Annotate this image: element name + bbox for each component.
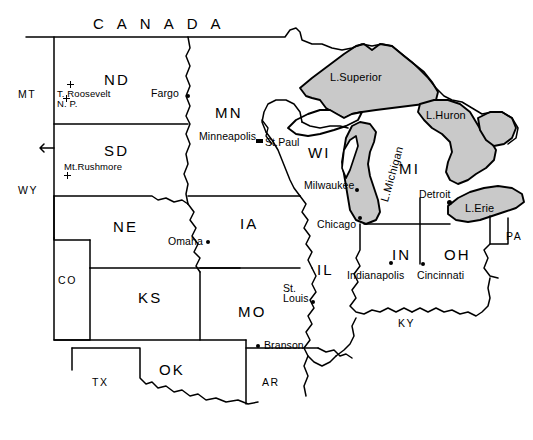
state-label-nd: ND (104, 72, 130, 88)
lake-label-lake-huron: L.Huron (426, 110, 466, 122)
country-label-canada: CANADA (93, 16, 234, 32)
city-marker-indianapolis (389, 261, 393, 265)
city-marker-omaha (206, 240, 210, 244)
great-lakes-shapes (288, 44, 524, 224)
landmark-marker-theodore-roosevelt-np-1 (63, 95, 70, 102)
state-label-il: IL (317, 262, 334, 278)
city-marker-fargo (186, 94, 190, 98)
city-label-milwaukee: Milwaukee (304, 180, 355, 191)
state-label-ar: AR (262, 377, 280, 388)
city-label-minneapolis: Minneapolis (199, 131, 256, 142)
city-label-cincinnati: Cincinnati (417, 270, 464, 281)
map-canvas: CANADAMTWYCOTXARKYPANDSDNEKSOKMNIAMOILWI… (0, 0, 533, 440)
state-label-ks: KS (138, 290, 162, 306)
landmark-marker-theodore-roosevelt-np-0 (67, 81, 74, 88)
state-label-co: CO (58, 275, 77, 286)
city-marker-st-louis (311, 300, 315, 304)
city-label-indianapolis: Indianapolis (347, 270, 404, 281)
state-label-ky: KY (398, 318, 415, 329)
city-marker-branson (256, 344, 260, 348)
city-marker-detroit (447, 200, 452, 205)
state-label-sd: SD (104, 143, 129, 159)
city-label-st-paul: St.Paul (265, 137, 300, 148)
city-label-fargo: Fargo (151, 88, 179, 99)
city-marker-cincinnati (421, 262, 425, 266)
state-label-mo: MO (238, 304, 267, 320)
city-marker-chicago (358, 216, 362, 220)
state-label-mt: MT (18, 89, 36, 100)
city-label-omaha: Omaha (168, 236, 203, 247)
city-label-chicago: Chicago (317, 219, 356, 230)
state-label-oh: OH (444, 247, 471, 263)
state-label-tx: TX (92, 377, 109, 388)
map-linework (0, 0, 533, 440)
landmark-marker-mount-rushmore-0 (64, 172, 71, 179)
city-marker-milwaukee (355, 188, 359, 192)
state-label-pa: PA (506, 231, 522, 242)
city-label-line: Louis (283, 293, 309, 303)
city-label-st-louis: St.Louis (283, 283, 309, 304)
state-label-mn: MN (215, 105, 243, 121)
landmark-label-line: Mt.Rushmore (64, 162, 122, 172)
state-label-ok: OK (159, 362, 185, 378)
state-label-wi: WI (308, 145, 331, 161)
state-label-mi: MI (399, 161, 420, 177)
city-marker-minneapolis (256, 139, 263, 143)
landmark-label-mount-rushmore: Mt.Rushmore (64, 162, 122, 172)
city-label-branson: Branson (264, 340, 304, 351)
state-label-ne: NE (113, 219, 138, 235)
state-label-ia: IA (240, 216, 259, 232)
lake-label-lake-superior: L.Superior (330, 72, 382, 84)
city-label-detroit: Detroit (419, 189, 451, 200)
lake-label-lake-erie: L.Erie (465, 203, 494, 215)
state-label-in: IN (392, 247, 411, 263)
state-label-wy: WY (18, 185, 38, 196)
